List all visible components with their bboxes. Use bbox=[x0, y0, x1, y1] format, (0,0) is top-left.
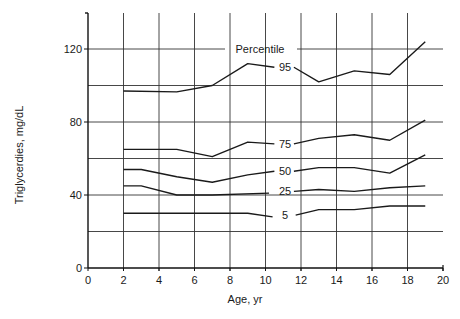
percentile-5-curve bbox=[296, 206, 426, 215]
percentile-label-5: 5 bbox=[282, 209, 288, 221]
x-axis-label: Age, yr bbox=[228, 293, 263, 305]
x-tick-label: 14 bbox=[330, 274, 342, 286]
percentile-75-curve bbox=[124, 142, 275, 157]
x-tick-label: 6 bbox=[191, 274, 197, 286]
x-tick-label: 8 bbox=[227, 274, 233, 286]
percentile-label-50: 50 bbox=[279, 165, 291, 177]
legend-title: Percentile bbox=[236, 43, 285, 55]
y-axis-label: Triglycerdies, mg/dL bbox=[13, 106, 25, 205]
y-tick-label: 40 bbox=[70, 189, 82, 201]
y-tick-label: 120 bbox=[64, 43, 82, 55]
x-tick-label: 18 bbox=[401, 274, 413, 286]
percentile-75-curve bbox=[294, 120, 425, 144]
x-tick-label: 16 bbox=[366, 274, 378, 286]
percentile-50-curve bbox=[294, 155, 425, 173]
y-tick-label: 0 bbox=[76, 262, 82, 274]
x-tick-label: 2 bbox=[120, 274, 126, 286]
x-tick-label: 12 bbox=[295, 274, 307, 286]
percentile-label-95: 95 bbox=[279, 61, 291, 73]
percentile-curves bbox=[124, 42, 426, 217]
percentile-25-curve bbox=[294, 186, 425, 191]
triglyceride-percentile-chart: 0408012002468101214161820 957550255 Perc… bbox=[0, 0, 460, 319]
percentile-95-curve bbox=[294, 42, 425, 82]
percentile-label-75: 75 bbox=[279, 138, 291, 150]
percentile-50-curve bbox=[124, 169, 275, 182]
x-tick-label: 0 bbox=[85, 274, 91, 286]
percentile-95-curve bbox=[124, 64, 275, 92]
percentile-5-curve bbox=[124, 213, 273, 217]
percentile-25-curve bbox=[124, 186, 270, 195]
x-tick-label: 20 bbox=[437, 274, 449, 286]
x-tick-label: 10 bbox=[259, 274, 271, 286]
y-tick-label: 80 bbox=[70, 116, 82, 128]
x-tick-label: 4 bbox=[156, 274, 162, 286]
percentile-label-25: 25 bbox=[279, 185, 291, 197]
